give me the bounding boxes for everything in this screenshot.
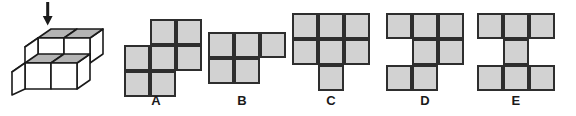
option-a[interactable]: A <box>110 0 202 116</box>
shape-cell <box>292 39 318 65</box>
shape-cell <box>150 45 176 71</box>
shape-cell <box>344 39 370 65</box>
shape-cell <box>150 19 176 45</box>
shape-cell <box>529 65 555 91</box>
shape-cell <box>438 39 464 65</box>
option-d[interactable]: D <box>379 0 471 116</box>
option-d-shape <box>379 0 471 94</box>
shape-cell <box>208 32 234 58</box>
option-d-label: D <box>379 93 471 108</box>
shape-cell <box>477 65 503 91</box>
option-e[interactable]: E <box>470 0 562 116</box>
stem-figure <box>0 0 112 100</box>
shape-cell <box>234 32 260 58</box>
shape-cell <box>529 13 555 39</box>
shape-cell <box>124 45 150 71</box>
shape-cell <box>318 39 344 65</box>
shape-cell <box>503 65 529 91</box>
option-a-label: A <box>110 93 202 108</box>
option-e-grid <box>477 13 555 91</box>
option-a-shape <box>110 0 202 94</box>
shape-cell <box>208 58 234 84</box>
shape-cell <box>318 65 344 91</box>
option-c[interactable]: C <box>285 0 377 116</box>
option-b-shape <box>196 0 288 94</box>
shape-cell <box>344 13 370 39</box>
option-b-grid <box>208 32 286 84</box>
shape-cell <box>234 58 260 84</box>
option-e-label: E <box>470 93 562 108</box>
shape-cell <box>386 13 412 39</box>
shape-cell <box>318 13 344 39</box>
shape-cell <box>477 13 503 39</box>
shape-cell <box>503 39 529 65</box>
shape-cell <box>386 65 412 91</box>
option-c-label: C <box>285 93 377 108</box>
shape-cell <box>412 13 438 39</box>
option-c-shape <box>285 0 377 94</box>
option-b-label: B <box>196 93 288 108</box>
isometric-cube-stack <box>2 24 110 96</box>
option-c-grid <box>292 13 370 91</box>
option-a-grid <box>124 19 202 97</box>
option-e-shape <box>470 0 562 94</box>
option-b[interactable]: B <box>196 0 288 116</box>
shape-cell <box>412 39 438 65</box>
puzzle-container: ABCDE <box>0 0 576 116</box>
shape-cell <box>438 13 464 39</box>
shape-cell <box>260 32 286 58</box>
shape-cell <box>412 65 438 91</box>
shape-cell <box>503 13 529 39</box>
option-d-grid <box>386 13 464 91</box>
shape-cell <box>292 13 318 39</box>
